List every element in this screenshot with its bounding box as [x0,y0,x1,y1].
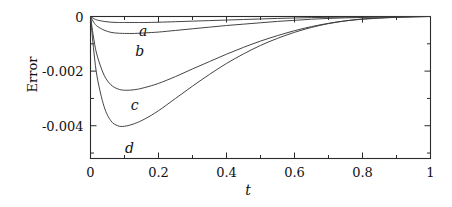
x-tick-label: 0.8 [352,166,373,179]
x-tick-label: 1 [426,166,434,179]
x-axis-title: t [245,183,251,197]
y-tick-label: -0.004 [20,119,84,132]
x-tick-label: 0.4 [216,166,237,179]
curve-label-c: c [131,98,139,112]
error-plot-figure: Error t 0-0.002-0.004 00.20.40.60.81 abc… [0,0,452,207]
curve-label-a: a [139,24,147,38]
x-tick-label: 0.6 [284,166,305,179]
curve-label-d: d [125,141,134,155]
x-tick-label: 0.2 [148,166,169,179]
y-tick-label: -0.002 [20,65,84,78]
y-tick-label: 0 [20,10,84,23]
x-tick-label: 0 [86,166,94,179]
curve-label-b: b [135,44,144,58]
